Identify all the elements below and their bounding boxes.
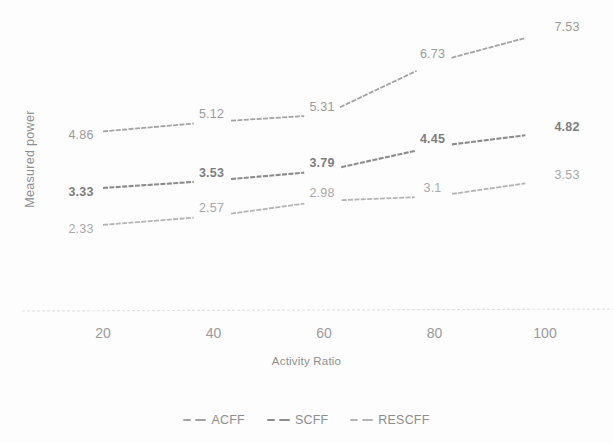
- series-line-segment: [103, 182, 194, 188]
- series-line-segment: [452, 183, 525, 194]
- legend-label: SCFF: [295, 413, 328, 427]
- chart-container: Measured power 20406080100 Activity Rati…: [0, 0, 613, 443]
- series-line-segment: [103, 218, 194, 225]
- x-tick-label: 100: [515, 325, 575, 341]
- legend-item-rescff[interactable]: RESCFF: [350, 413, 429, 427]
- series-line-segment: [231, 204, 304, 214]
- legend-line-icon: [350, 419, 373, 421]
- x-tick-label: 40: [184, 325, 244, 341]
- legend-label: ACFF: [211, 413, 244, 427]
- x-tick-label: 80: [405, 325, 465, 341]
- data-label: 3.53: [554, 168, 579, 182]
- data-label: 4.82: [554, 120, 579, 134]
- x-tick-label: 20: [73, 325, 133, 341]
- legend-dash: [350, 419, 358, 421]
- data-label: 7.53: [554, 20, 579, 34]
- legend-dash: [195, 419, 206, 421]
- legend-label: RESCFF: [378, 413, 429, 427]
- data-label: 2.98: [309, 186, 334, 200]
- x-axis-title: Activity Ratio: [0, 355, 613, 367]
- data-label: 3.79: [309, 156, 334, 170]
- series-line-segment: [341, 151, 415, 167]
- chart-legend: ACFFSCFFRESCFF: [0, 413, 613, 427]
- legend-line-icon: [183, 419, 206, 421]
- legend-item-scff[interactable]: SCFF: [267, 413, 328, 427]
- series-line-segment: [452, 38, 526, 58]
- data-label: 3.1: [424, 181, 442, 195]
- series-line-segment: [103, 124, 194, 132]
- series-line-segment: [452, 135, 525, 144]
- series-line-segment: [342, 197, 415, 200]
- data-label: 3.33: [68, 185, 93, 199]
- data-label: 3.53: [199, 166, 224, 180]
- data-label: 5.12: [199, 107, 224, 121]
- series-line-segment: [340, 71, 417, 107]
- data-label: 4.45: [420, 132, 445, 146]
- data-label: 4.86: [68, 128, 93, 142]
- x-axis-line: [22, 309, 613, 311]
- data-label: 2.33: [68, 222, 93, 236]
- series-line-segment: [231, 116, 304, 121]
- legend-item-acff[interactable]: ACFF: [183, 413, 244, 427]
- legend-dash: [183, 419, 191, 421]
- y-axis-title: Measured power: [23, 69, 37, 249]
- data-label: 2.57: [199, 201, 224, 215]
- data-label: 6.73: [420, 47, 445, 61]
- series-line-segment: [231, 173, 304, 179]
- x-tick-label: 60: [294, 325, 354, 341]
- legend-line-icon: [267, 419, 290, 421]
- legend-dash: [279, 419, 290, 421]
- legend-dash: [362, 419, 373, 421]
- legend-dash: [267, 419, 275, 421]
- data-label: 5.31: [309, 100, 334, 114]
